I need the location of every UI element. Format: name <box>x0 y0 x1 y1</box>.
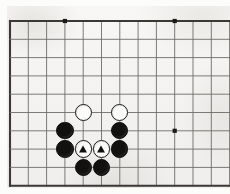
black-stone[interactable] <box>111 122 128 139</box>
black-stone[interactable] <box>111 140 128 157</box>
triangle-mark-icon <box>97 146 105 153</box>
white-stone[interactable] <box>75 140 92 157</box>
go-board-diagram: Go diagram: two white stones marked with… <box>0 0 230 194</box>
triangle-mark-icon <box>79 146 87 153</box>
black-stone[interactable] <box>56 140 73 157</box>
white-stone[interactable] <box>93 140 110 157</box>
black-stone[interactable] <box>56 122 73 139</box>
black-stone[interactable] <box>93 159 110 176</box>
white-stone[interactable] <box>111 104 128 121</box>
stone-layer <box>0 0 230 194</box>
black-stone[interactable] <box>75 159 92 176</box>
white-stone[interactable] <box>75 104 92 121</box>
